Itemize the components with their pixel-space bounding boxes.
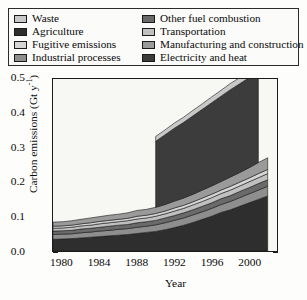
legend-swatch-other-fuel-combustion [142,15,155,23]
y-axis-label-text: Carbon emissions (Gt y [27,85,39,193]
legend-label-manufacturing-and-construction: Manufacturing and construction [160,39,304,50]
figure: Waste Agriculture Fugitive emissions Ind… [0,0,307,300]
plot-frame [52,78,278,252]
y-tick-label-0-1: 0.1 [0,211,25,222]
x-tick-label-2000: 2000 [228,257,272,268]
legend-swatch-manufacturing-and-construction [142,41,155,49]
legend-item-agriculture: Agriculture [14,25,142,38]
y-tick-label-0-4: 0.4 [0,107,25,118]
y-axis-label-close: ) [27,75,39,79]
y-tick-right-0-0 [273,252,278,253]
y-tick-0-0 [53,252,58,253]
y-tick-label-0-0: 0.0 [0,246,25,257]
legend-column-right: Other fuel combustion Transportation Man… [142,12,298,65]
legend-label-agriculture: Agriculture [32,26,84,37]
legend-label-other-fuel-combustion: Other fuel combustion [160,13,261,24]
plot-area: Carbon emissions (Gt y-1) 0.00.10.20.30.… [0,66,307,300]
y-tick-label-0-3: 0.3 [0,142,25,153]
y-axis-label-exponent: -1 [25,79,34,85]
legend-label-waste: Waste [32,13,59,24]
legend-swatch-industrial-processes [14,54,27,62]
legend-swatch-electricity-and-heat [142,54,155,62]
legend-label-electricity-and-heat: Electricity and heat [160,52,247,63]
legend-item-electricity-and-heat: Electricity and heat [142,51,298,64]
legend-swatch-waste [14,15,27,23]
x-axis-label: Year [22,277,307,289]
legend-item-fugitive-emissions: Fugitive emissions [14,38,142,51]
stacked-area-chart [53,79,277,251]
legend-item-manufacturing-and-construction: Manufacturing and construction [142,38,298,51]
legend-swatch-agriculture [14,28,27,36]
legend-swatch-transportation [142,28,155,36]
y-tick-label-0-2: 0.2 [0,176,25,187]
chart-legend: Waste Agriculture Fugitive emissions Ind… [8,8,299,66]
legend-label-industrial-processes: Industrial processes [32,52,121,63]
legend-swatch-fugitive-emissions [14,41,27,49]
legend-item-other-fuel-combustion: Other fuel combustion [142,12,298,25]
legend-item-waste: Waste [14,12,142,25]
legend-label-fugitive-emissions: Fugitive emissions [32,39,116,50]
legend-label-transportation: Transportation [160,26,225,37]
y-axis-label: Carbon emissions (Gt y-1) [27,54,39,214]
y-tick-label-0-5: 0.5 [0,72,25,83]
legend-item-transportation: Transportation [142,25,298,38]
